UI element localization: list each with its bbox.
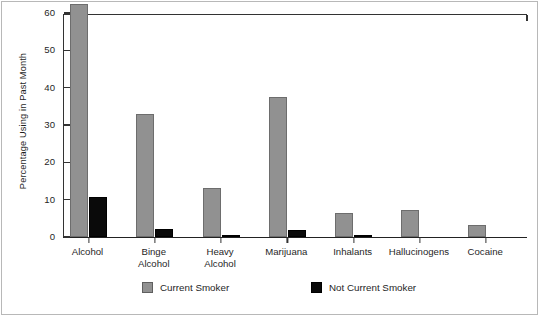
bar-current-smoker xyxy=(468,225,486,237)
plot-frame-right-stub xyxy=(526,15,527,21)
x-axis-label-line: Hallucinogens xyxy=(389,246,449,258)
bar-current-smoker xyxy=(203,188,221,237)
x-axis-label: Cocaine xyxy=(468,246,503,258)
bar-not-current-smoker xyxy=(288,230,306,237)
x-axis-tick xyxy=(88,237,89,243)
plot-area: 0102030405060 xyxy=(63,14,527,238)
x-axis-tick xyxy=(154,237,155,243)
x-axis-label-line: Marijuana xyxy=(265,246,307,258)
x-axis-tick xyxy=(353,237,354,243)
x-axis-label: Hallucinogens xyxy=(389,246,449,258)
y-axis-title: Percentage Using in Past Month xyxy=(18,6,28,236)
x-axis-label-line: Alcohol xyxy=(204,258,235,270)
x-axis-label-line: Inhalants xyxy=(333,246,372,258)
x-axis-label: Marijuana xyxy=(265,246,307,258)
x-axis-label: BingeAlcohol xyxy=(138,246,169,271)
bar-group xyxy=(401,15,438,237)
bar-current-smoker xyxy=(70,4,88,237)
x-axis-label: Inhalants xyxy=(333,246,372,258)
x-axis-label-line: Binge xyxy=(138,246,169,258)
legend-swatch-current-smoker xyxy=(142,282,153,293)
bar-current-smoker xyxy=(269,97,287,237)
x-axis-tick xyxy=(419,237,420,243)
x-axis-label-line: Cocaine xyxy=(468,246,503,258)
bar-not-current-smoker xyxy=(354,235,372,237)
legend-label: Not Current Smoker xyxy=(329,282,416,293)
bar-group xyxy=(203,15,240,237)
bar-group xyxy=(468,15,505,237)
x-axis-label-line: Alcohol xyxy=(72,246,103,258)
bar-group xyxy=(269,15,306,237)
x-axis-label: HeavyAlcohol xyxy=(204,246,235,271)
bar-group xyxy=(70,15,107,237)
bar-chart-figure: Percentage Using in Past Month 010203040… xyxy=(0,0,539,316)
bar-not-current-smoker xyxy=(155,229,173,237)
x-axis-label-line: Heavy xyxy=(204,246,235,258)
x-axis-tick xyxy=(287,237,288,243)
y-tick-label: 0 xyxy=(50,230,55,243)
y-tick-label: 20 xyxy=(44,155,55,168)
legend-item[interactable]: Current Smoker xyxy=(142,282,229,293)
legend-label: Current Smoker xyxy=(160,282,229,293)
bar-current-smoker xyxy=(136,114,154,237)
y-tick-label: 50 xyxy=(44,43,55,56)
chart-legend: Current SmokerNot Current Smoker xyxy=(0,282,539,298)
y-tick-label: 30 xyxy=(44,118,55,131)
bar-group xyxy=(335,15,372,237)
x-axis-label: Alcohol xyxy=(72,246,103,258)
x-axis-label-line: Alcohol xyxy=(138,258,169,270)
y-tick-label: 10 xyxy=(44,193,55,206)
y-tick-label: 40 xyxy=(44,81,55,94)
y-tick-label: 60 xyxy=(44,6,55,19)
bar-group xyxy=(136,15,173,237)
x-axis-tick xyxy=(486,237,487,243)
bar-current-smoker xyxy=(401,210,419,237)
legend-swatch-not-current-smoker xyxy=(311,282,322,293)
bar-not-current-smoker xyxy=(222,235,240,237)
bar-not-current-smoker xyxy=(89,197,107,237)
x-axis-tick xyxy=(220,237,221,243)
legend-item[interactable]: Not Current Smoker xyxy=(311,282,416,293)
bar-current-smoker xyxy=(335,213,353,237)
